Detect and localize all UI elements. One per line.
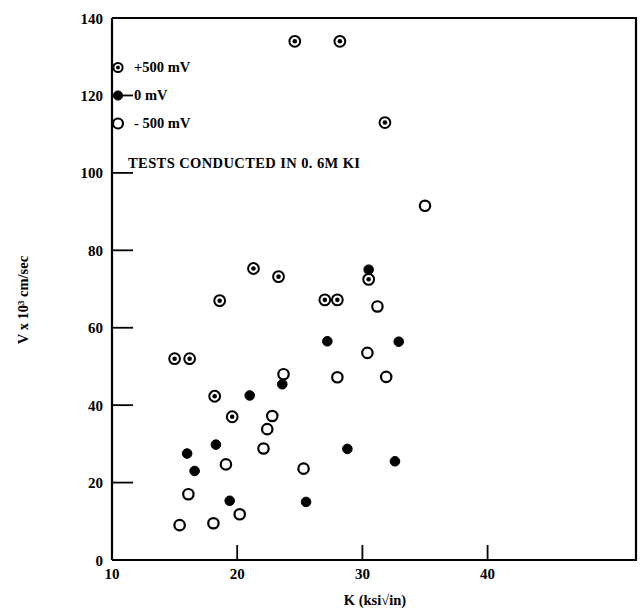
legend-label: +500 mV bbox=[134, 59, 191, 75]
data-point bbox=[390, 456, 400, 466]
data-point bbox=[225, 496, 235, 506]
legend-marker-2 bbox=[113, 119, 123, 129]
data-point bbox=[258, 443, 268, 453]
data-point bbox=[273, 271, 284, 282]
data-point bbox=[301, 497, 311, 507]
y-tick-label: 140 bbox=[81, 11, 104, 27]
legend-label: - 500 mV bbox=[134, 115, 191, 131]
y-axis-title: V x 10³ cm/sec bbox=[15, 255, 31, 344]
x-tick-label: 10 bbox=[105, 566, 120, 582]
data-point bbox=[380, 117, 391, 128]
x-tick-label: 20 bbox=[230, 566, 245, 582]
data-point bbox=[363, 274, 374, 285]
legend-marker-0 bbox=[113, 63, 122, 72]
x-axis-title: K (ksi√in) bbox=[344, 592, 407, 609]
data-point bbox=[190, 466, 200, 476]
data-point bbox=[214, 295, 225, 306]
data-point bbox=[332, 372, 342, 382]
data-point bbox=[364, 265, 374, 275]
data-point bbox=[267, 411, 277, 421]
data-point bbox=[362, 348, 372, 358]
data-point bbox=[277, 379, 287, 389]
data-point bbox=[235, 509, 245, 519]
y-tick-label: 40 bbox=[88, 398, 103, 414]
data-point bbox=[278, 369, 288, 379]
data-point bbox=[245, 391, 255, 401]
data-point bbox=[343, 444, 353, 454]
x-tick-label: 30 bbox=[355, 566, 370, 582]
legend-marker-1 bbox=[113, 91, 122, 100]
data-point bbox=[221, 459, 231, 469]
data-point bbox=[332, 294, 343, 305]
data-point bbox=[420, 201, 430, 211]
data-point bbox=[227, 411, 238, 422]
data-point bbox=[323, 336, 333, 346]
data-point bbox=[182, 449, 192, 459]
test-conditions-annotation: TESTS CONDUCTED IN 0. 6M KI bbox=[128, 155, 360, 171]
y-tick-label: 0 bbox=[96, 553, 104, 569]
y-tick-label: 80 bbox=[88, 243, 103, 259]
data-point bbox=[208, 518, 218, 528]
plot-canvas: 020406080100120140 10203040 V x 10³ cm/s… bbox=[0, 0, 640, 613]
data-point bbox=[211, 440, 221, 450]
data-point bbox=[169, 353, 180, 364]
data-point bbox=[209, 391, 220, 402]
data-point bbox=[298, 463, 308, 473]
y-tick-label: 100 bbox=[81, 165, 104, 181]
data-point bbox=[174, 520, 184, 530]
y-tick-label: 20 bbox=[88, 475, 103, 491]
scatter-plot-figure: 020406080100120140 10203040 V x 10³ cm/s… bbox=[0, 0, 640, 613]
legend-label: 0 mV bbox=[134, 87, 168, 103]
x-tick-label: 40 bbox=[480, 566, 495, 582]
data-point bbox=[184, 353, 195, 364]
data-point bbox=[334, 36, 345, 47]
y-tick-label: 120 bbox=[81, 88, 104, 104]
data-point bbox=[381, 372, 391, 382]
data-point bbox=[262, 424, 272, 434]
data-point bbox=[319, 294, 330, 305]
data-point bbox=[372, 301, 382, 311]
data-point bbox=[394, 337, 404, 347]
y-tick-label: 60 bbox=[88, 320, 103, 336]
data-point bbox=[289, 36, 300, 47]
data-point bbox=[183, 489, 193, 499]
data-point bbox=[248, 263, 259, 274]
